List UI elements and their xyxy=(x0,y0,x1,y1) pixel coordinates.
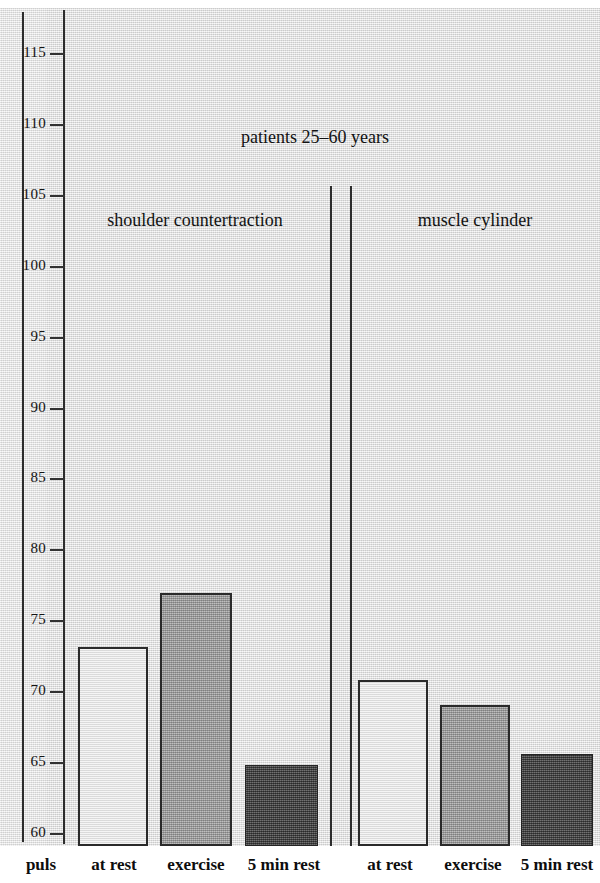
y-tick-label: 110 xyxy=(0,115,46,132)
y-tick-label: 65 xyxy=(0,753,46,770)
y-axis-line xyxy=(63,10,65,844)
y-tick-label: 100 xyxy=(0,257,46,274)
y-tick-mark xyxy=(50,337,65,339)
axis-left-rule xyxy=(22,12,24,842)
y-tick-label: 85 xyxy=(0,469,46,486)
x-label-g2-5-min-rest: 5 min rest xyxy=(512,855,600,875)
group-divider-left xyxy=(330,186,332,846)
y-tick-mark xyxy=(50,478,65,480)
group-label-muscle-cylinder: muscle cylinder xyxy=(370,210,580,231)
y-tick-label: 90 xyxy=(0,399,46,416)
x-label-g2-at-rest: at rest xyxy=(353,855,427,875)
y-tick-mark xyxy=(50,124,65,126)
y-tick-mark xyxy=(50,408,65,410)
y-tick-mark xyxy=(50,762,65,764)
y-tick-label: 115 xyxy=(0,44,46,61)
y-tick-mark xyxy=(50,549,65,551)
y-tick-label: 70 xyxy=(0,682,46,699)
y-tick-label: 80 xyxy=(0,540,46,557)
x-label-g1-at-rest: at rest xyxy=(78,855,150,875)
y-tick-label: 60 xyxy=(0,824,46,841)
y-tick-label: 95 xyxy=(0,328,46,345)
group-label-shoulder-countertraction: shoulder countertraction xyxy=(70,210,320,231)
bar-g2-exercise xyxy=(440,705,510,846)
y-axis-caption: puls xyxy=(6,855,76,875)
y-tick-mark xyxy=(50,266,65,268)
y-tick-label: 105 xyxy=(0,186,46,203)
bar-g1-5-min-rest xyxy=(245,765,318,846)
bar-chart: 115 110 105 100 95 90 85 80 75 70 65 60 … xyxy=(0,0,600,883)
bar-g2-5-min-rest xyxy=(521,754,593,846)
y-tick-mark xyxy=(50,833,65,835)
y-tick-label: 75 xyxy=(0,611,46,628)
y-tick-mark xyxy=(50,53,65,55)
x-label-g2-exercise: exercise xyxy=(432,855,514,875)
bar-g1-exercise xyxy=(160,593,232,846)
chart-title: patients 25–60 years xyxy=(150,127,480,148)
y-tick-mark xyxy=(50,620,65,622)
bar-g1-at-rest xyxy=(78,647,148,846)
x-label-g1-exercise: exercise xyxy=(155,855,237,875)
y-tick-mark xyxy=(50,195,65,197)
group-divider-right xyxy=(350,186,352,846)
x-label-g1-5-min-rest: 5 min rest xyxy=(238,855,330,875)
bar-g2-at-rest xyxy=(358,680,428,846)
y-tick-mark xyxy=(50,691,65,693)
